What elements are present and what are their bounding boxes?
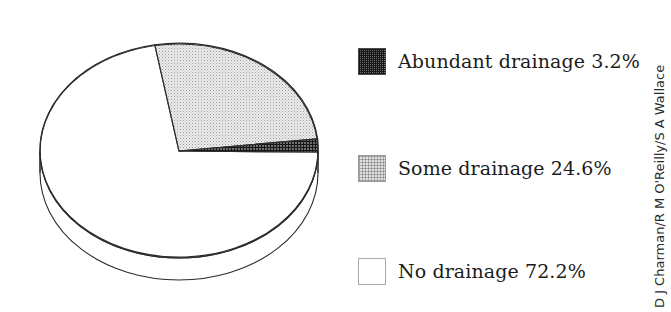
legend-label-some-drainage: Some drainage 24.6% xyxy=(398,158,612,178)
legend-swatch-some-drainage xyxy=(358,155,386,182)
legend-swatch-abundant-drainage xyxy=(358,48,386,75)
legend-label-abundant-drainage: Abundant drainage 3.2% xyxy=(398,51,640,71)
legend-label-no-drainage: No drainage 72.2% xyxy=(398,261,586,281)
pie-chart-3d xyxy=(0,0,340,312)
legend-item-no-drainage[interactable]: No drainage 72.2% xyxy=(352,256,586,286)
credit-text: D J Charman/R M O'Reilly/S A Wallace xyxy=(649,0,671,312)
legend-item-some-drainage[interactable]: Some drainage 24.6% xyxy=(352,153,612,183)
chart-legend: Abundant drainage 3.2% Some drainage 24.… xyxy=(352,0,614,312)
pie-chart-figure: Abundant drainage 3.2% Some drainage 24.… xyxy=(0,0,671,312)
legend-item-abundant-drainage[interactable]: Abundant drainage 3.2% xyxy=(352,46,640,76)
legend-swatch-no-drainage xyxy=(358,258,386,285)
pie-slice-some-drainage[interactable] xyxy=(155,43,318,151)
credit-line: D J Charman/R M O'Reilly/S A Wallace xyxy=(649,0,671,312)
